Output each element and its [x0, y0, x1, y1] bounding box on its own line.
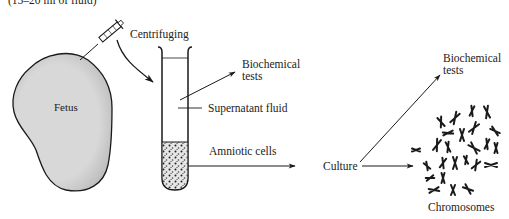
test-tube [158, 47, 192, 190]
chromosomes-label: Chromosomes [428, 201, 494, 213]
culture-label: Culture [323, 160, 358, 172]
supernatant-fluid-label: Supernatant fluid [208, 102, 288, 114]
biochemical-tests-label-1: Biochemical tests [242, 58, 300, 82]
amniotic-cells-label: Amniotic cells [209, 145, 276, 157]
centrifuging-label: Centrifuging [130, 28, 189, 40]
centrifuge-arrow [117, 40, 153, 82]
syringe-icon [80, 17, 126, 60]
fetus-sac [13, 54, 112, 191]
chromosomes-icon [412, 106, 500, 195]
arrow-culture-to-biochem [360, 75, 440, 162]
fetus-label: Fetus [54, 101, 78, 113]
biochemical-tests-label-2: Biochemical tests [443, 52, 501, 76]
fluid-volume-caption: (15–20 ml of fluid) [8, 0, 96, 6]
